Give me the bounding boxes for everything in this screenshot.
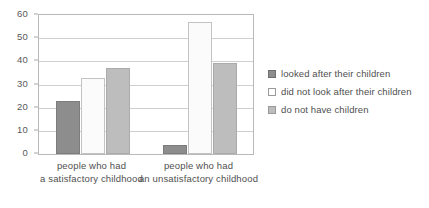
legend-item[interactable]: looked after their children — [268, 66, 426, 82]
bar-group — [146, 15, 253, 154]
bar — [213, 63, 237, 155]
legend-item-label: do not have children — [281, 105, 369, 115]
bar — [106, 68, 130, 154]
bar — [56, 101, 80, 154]
y-tick-label: 30 — [17, 79, 28, 89]
x-axis-category-label: people who hadan unsatisfactory childhoo… — [117, 159, 280, 185]
plot-area — [38, 14, 254, 155]
category-label-line: people who had — [117, 159, 280, 172]
bar-group — [39, 15, 146, 154]
y-tick-label: 20 — [17, 102, 28, 112]
y-tick-label: 40 — [17, 56, 28, 66]
category-label-line: an unsatisfactory childhood — [117, 172, 280, 185]
y-tick-label: 10 — [17, 125, 28, 135]
y-tick-label: 60 — [17, 9, 28, 19]
legend-swatch-dark-icon — [268, 70, 276, 78]
bar — [188, 22, 212, 154]
legend-swatch-gray-icon — [268, 106, 276, 114]
y-tick-label: 0 — [23, 148, 28, 158]
chart-legend: looked after their childrendid not look … — [268, 66, 426, 120]
legend-item-label: did not look after their children — [281, 87, 412, 97]
y-axis: 0102030405060 — [0, 14, 34, 155]
legend-item-label: looked after their children — [281, 69, 390, 79]
legend-swatch-white-icon — [268, 88, 276, 96]
y-tick-label: 50 — [17, 32, 28, 42]
legend-item[interactable]: did not look after their children — [268, 84, 426, 100]
legend-item[interactable]: do not have children — [268, 102, 426, 118]
bar — [81, 78, 105, 154]
bar — [163, 145, 187, 154]
bar-chart: 0102030405060 people who hada satisfacto… — [0, 0, 429, 208]
